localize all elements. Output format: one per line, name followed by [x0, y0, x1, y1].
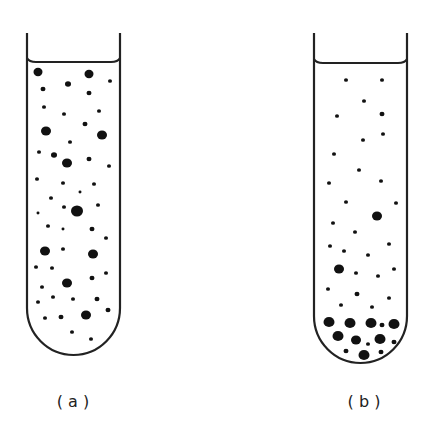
particle: [354, 271, 358, 275]
particle: [387, 296, 391, 300]
liquid-meniscus: [27, 58, 120, 62]
particle: [37, 212, 40, 215]
particle: [353, 230, 357, 234]
particle: [361, 138, 365, 142]
particle: [332, 152, 336, 156]
particle: [46, 224, 50, 228]
particle: [40, 246, 50, 255]
particle: [370, 305, 374, 309]
particle: [379, 179, 383, 183]
particle: [90, 276, 95, 281]
particle: [394, 201, 398, 205]
label-b: ( b ): [348, 392, 381, 411]
particle: [97, 109, 101, 113]
particle: [87, 91, 92, 96]
particle: [355, 292, 360, 297]
particle: [65, 81, 71, 87]
particle: [359, 350, 370, 360]
particle: [339, 303, 343, 307]
particle: [49, 196, 53, 200]
particle: [389, 319, 400, 329]
particle: [381, 132, 385, 136]
particle: [34, 68, 43, 76]
particle: [334, 264, 344, 273]
particle: [96, 203, 100, 207]
particle: [51, 295, 55, 299]
particle: [366, 253, 370, 257]
label-a: ( a ): [57, 392, 89, 411]
tube-outline: [314, 33, 407, 363]
particle: [71, 297, 75, 301]
particle: [62, 158, 72, 167]
particle: [97, 130, 107, 139]
test-tube-a: [27, 33, 120, 355]
particle: [81, 310, 91, 319]
particle: [376, 274, 380, 278]
particle: [87, 157, 92, 162]
particle: [331, 221, 335, 225]
particle: [41, 87, 46, 92]
particle: [351, 335, 361, 344]
particle: [51, 152, 57, 158]
particle: [36, 300, 40, 304]
particle: [59, 315, 64, 320]
particle: [344, 349, 349, 354]
particle: [344, 200, 348, 204]
particle: [387, 242, 391, 246]
tube-outline: [27, 33, 120, 355]
particle: [333, 331, 344, 341]
particle: [50, 266, 54, 270]
particle: [372, 211, 382, 220]
particle: [37, 150, 41, 154]
particle: [34, 265, 38, 269]
particle: [62, 228, 65, 231]
particle: [328, 244, 332, 248]
particle: [335, 114, 339, 118]
particle: [83, 122, 88, 127]
particle: [379, 350, 384, 355]
particle: [375, 334, 386, 344]
particle: [95, 297, 100, 302]
particle: [89, 337, 93, 341]
particle: [104, 236, 108, 240]
particle: [392, 267, 396, 271]
particle: [61, 181, 65, 185]
particle: [327, 181, 331, 185]
particle: [62, 205, 66, 209]
particle: [92, 182, 96, 186]
particle: [392, 340, 397, 345]
particle: [324, 317, 335, 327]
particle: [380, 323, 385, 328]
particle: [380, 112, 385, 117]
particle: [88, 249, 98, 258]
particle: [85, 70, 94, 78]
particle: [42, 105, 46, 109]
particle: [62, 278, 72, 287]
particle: [40, 285, 44, 289]
particle: [345, 318, 356, 328]
particle: [108, 79, 112, 83]
particle: [362, 99, 366, 103]
particle: [43, 316, 47, 320]
particle: [62, 112, 66, 116]
particle: [70, 330, 74, 334]
particle: [41, 126, 51, 135]
particle: [79, 191, 82, 194]
particle: [107, 164, 111, 168]
liquid-meniscus: [314, 59, 407, 63]
particle: [71, 205, 83, 216]
particle: [357, 168, 361, 172]
particle: [380, 78, 384, 82]
particle: [90, 227, 95, 232]
particle: [106, 308, 111, 313]
particle: [342, 249, 346, 253]
particle: [35, 177, 39, 181]
particle: [104, 271, 108, 275]
particle: [326, 287, 330, 291]
particle: [68, 140, 72, 144]
particle: [61, 247, 65, 251]
test-tube-b: [314, 33, 407, 363]
test-tube-diagram: ( a ) ( b ): [0, 0, 430, 433]
particle: [366, 342, 370, 346]
particle: [366, 318, 377, 328]
